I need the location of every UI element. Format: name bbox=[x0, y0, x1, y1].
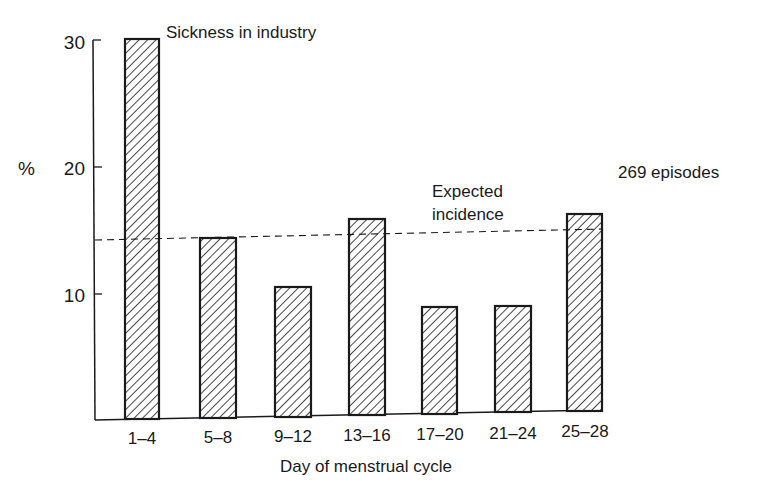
y-axis bbox=[93, 40, 102, 420]
x-tick-label: 5–8 bbox=[204, 428, 232, 447]
x-tick-label: 21–24 bbox=[489, 424, 536, 443]
y-tick-20: 20 bbox=[64, 158, 85, 179]
x-tick-label: 17–20 bbox=[416, 425, 463, 444]
bar-1-4 bbox=[125, 39, 159, 419]
y-axis-label: % bbox=[18, 158, 35, 179]
bar-25-28 bbox=[567, 214, 602, 411]
bar-17-20 bbox=[422, 307, 457, 414]
bar-21-24 bbox=[495, 306, 531, 412]
bars bbox=[125, 39, 602, 419]
chart-title: Sickness in industry bbox=[166, 23, 317, 42]
x-tick-label: 1–4 bbox=[128, 429, 156, 448]
x-tick-label: 13–16 bbox=[343, 426, 390, 445]
bar-5-8 bbox=[200, 238, 236, 418]
y-tick-10: 10 bbox=[64, 285, 85, 306]
x-axis-label: Day of menstrual cycle bbox=[280, 457, 452, 476]
x-tick-label: 25–28 bbox=[561, 422, 608, 441]
x-tick-label: 9–12 bbox=[274, 427, 312, 446]
bar-9-12 bbox=[275, 287, 311, 417]
reference-label-line2: incidence bbox=[432, 205, 504, 224]
reference-label-line1: Expected bbox=[432, 182, 503, 201]
y-tick-30: 30 bbox=[64, 32, 85, 53]
bar-13-16 bbox=[349, 219, 385, 415]
episode-count: 269 episodes bbox=[618, 163, 719, 182]
chart-canvas: 30 20 10 % Sickness in industry 269 epis… bbox=[0, 0, 757, 485]
